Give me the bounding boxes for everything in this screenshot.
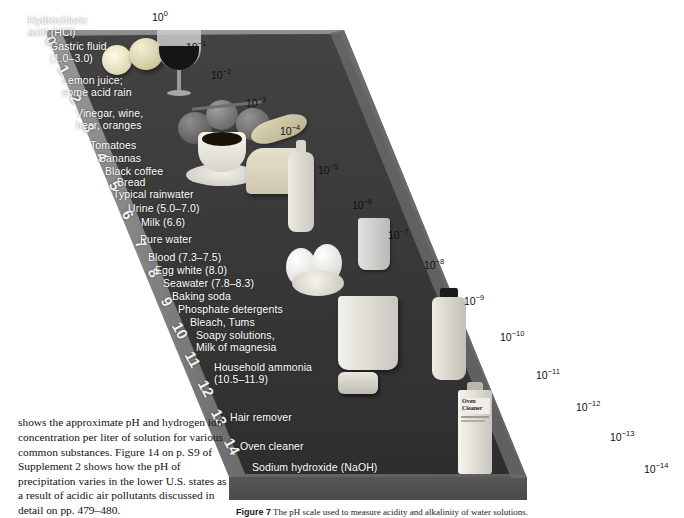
substance-label-gastric-fluid: Gastric fluid (1.0–3.0) <box>50 40 107 64</box>
exponent-label-8: 10−8 <box>424 258 444 270</box>
exponent-label-0: 100 <box>152 10 168 22</box>
oven-cleaner-label-line1: Oven <box>462 398 476 404</box>
substance-label-lemon-juice: Lemon juice; some acid rain <box>62 74 132 98</box>
exponent-label-11: 10−11 <box>536 368 560 380</box>
substance-label-bread: Bread <box>117 176 146 188</box>
figure-caption-label: Figure 7 <box>236 507 271 517</box>
substance-label-baking-soda: Baking soda <box>172 290 231 302</box>
exponent-label-2: 10−2 <box>211 68 231 80</box>
exponent-label-6: 10−6 <box>352 198 372 210</box>
substance-label-oven-cleaner: Oven cleaner <box>240 440 304 452</box>
soap-bar-object <box>338 372 378 394</box>
oven-cleaner-label-line2: Cleaner <box>462 405 482 411</box>
eggs-object <box>286 244 352 298</box>
substance-label-blood: Blood (7.3–7.5) <box>148 251 221 263</box>
substance-label-egg-white: Egg white (8.0) <box>155 264 227 276</box>
substance-label-milk: Milk (6.6) <box>141 216 185 228</box>
exponent-label-1: 10−1 <box>186 40 206 52</box>
exponent-label-4: 10−4 <box>280 124 300 136</box>
substance-label-hydrochloric-acid: Hydrochloric acid (HCl) <box>28 14 88 38</box>
exponent-label-7: 10−7 <box>388 228 408 240</box>
exponent-label-9: 10−9 <box>464 294 484 306</box>
bleach-bottle-object <box>432 288 466 380</box>
exponent-label-12: 10−12 <box>576 400 600 412</box>
substance-label-typical-rainwater: Typical rainwater <box>113 188 193 200</box>
substance-label-bleach-tums: Bleach, Tums <box>190 316 255 328</box>
substance-label-soapy-solutions: Soapy solutions, Milk of magnesia <box>196 329 276 353</box>
figure-caption: Figure 7 The pH scale used to measure ac… <box>236 507 684 518</box>
exponent-label-14: 10−14 <box>644 462 668 474</box>
oven-cleaner-can-object: Oven Cleaner <box>458 382 492 474</box>
substance-label-urine: Urine (5.0–7.0) <box>128 202 200 214</box>
substance-label-phosphate-detergents: Phosphate detergents <box>178 303 283 315</box>
body-paragraph: shows the approximate pH and hydrogen io… <box>18 415 233 517</box>
ph-scale-figure: Oven Cleaner 0 1 2 3 4 5 6 7 8 9 10 11 1… <box>0 0 684 518</box>
squeeze-bottle-object <box>288 140 314 232</box>
substance-label-sodium-hydroxide: Sodium hydroxide (NaOH) <box>252 461 377 473</box>
exponent-label-13: 10−13 <box>610 430 634 442</box>
substance-label-household-ammonia: Household ammonia (10.5–11.9) <box>214 361 312 385</box>
substance-label-hair-remover: Hair remover <box>230 411 292 423</box>
detergent-bucket-object <box>338 296 398 370</box>
substance-label-bananas: Bananas <box>99 152 141 164</box>
water-glass-object <box>358 218 390 270</box>
substance-label-vinegar-wine: Vinegar, wine, beer, oranges <box>76 107 143 131</box>
exponent-label-3: 10−3 <box>246 96 266 108</box>
exponent-label-5: 10−5 <box>318 163 338 175</box>
substance-label-pure-water: Pure water <box>140 233 192 245</box>
figure-caption-text: The pH scale used to measure acidity and… <box>273 507 528 517</box>
exponent-label-10: 10−10 <box>500 330 524 342</box>
substance-label-tomatoes: Tomatoes <box>90 139 136 151</box>
substance-label-seawater: Seawater (7.8–8.3) <box>163 277 254 289</box>
